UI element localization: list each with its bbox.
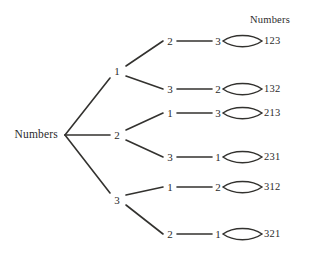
level3-node-row5: 2 [215, 182, 221, 193]
outcomes-column-header: Numbers [250, 15, 290, 26]
lens-row3 [223, 107, 262, 118]
outcome-row5: 312 [264, 182, 280, 193]
edge-1-3 [126, 76, 163, 89]
lens-row1 [223, 35, 262, 46]
lens-row4 [223, 151, 262, 162]
outcome-row1: 123 [264, 36, 280, 47]
edge-3-1 [126, 187, 163, 195]
root-node-label: Numbers [14, 129, 58, 141]
level2-node-row2: 3 [167, 84, 173, 95]
lens-row2 [223, 83, 262, 94]
outcome-row2: 132 [264, 84, 280, 95]
level3-node-row6: 1 [215, 229, 221, 240]
level1-node-3: 3 [114, 195, 120, 206]
level1-node-1: 1 [114, 66, 120, 77]
edge-root-1 [65, 78, 110, 135]
edge-2-3 [126, 140, 163, 157]
level1-node-2: 2 [114, 130, 120, 141]
level3-node-row3: 3 [215, 108, 221, 119]
level3-node-row2: 2 [215, 84, 221, 95]
level2-node-row3: 1 [167, 108, 173, 119]
edge-3-2 [126, 205, 163, 234]
level2-node-row5: 1 [167, 182, 173, 193]
outcome-row3: 213 [264, 108, 280, 119]
level2-node-row6: 2 [167, 229, 173, 240]
edge-root-3 [65, 135, 110, 193]
level3-node-row1: 3 [215, 36, 221, 47]
level2-node-row1: 2 [167, 36, 173, 47]
edge-2-1 [126, 113, 163, 130]
outcome-row6: 321 [264, 229, 280, 240]
edge-1-2 [126, 41, 163, 66]
tree-diagram: Numbers Numbers 1 2 3 2 3 1 3 1 2 3 2 3 … [0, 0, 309, 254]
outcome-row4: 231 [264, 152, 280, 163]
level2-node-row4: 3 [167, 152, 173, 163]
lens-row6 [223, 228, 262, 239]
level3-node-row4: 1 [215, 152, 221, 163]
lens-row5 [223, 181, 262, 192]
tree-edges-svg [0, 0, 309, 254]
